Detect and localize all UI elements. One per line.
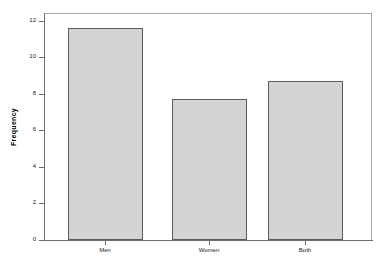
- y-axis-tick-label-4: 4: [33, 163, 36, 170]
- bar-women[interactable]: [172, 99, 247, 240]
- plot-area: [45, 14, 372, 240]
- bar-men[interactable]: [68, 28, 143, 240]
- y-axis-tick-label-0: 0: [33, 236, 36, 243]
- x-axis-tick-men: [105, 241, 106, 245]
- x-axis-label-both: Both: [299, 246, 311, 254]
- x-axis-label-women: Women: [199, 246, 220, 254]
- bar-chart: Frequency 12 10 8 6 4 2 0 Men Women Both: [0, 0, 387, 271]
- bar-both[interactable]: [268, 81, 343, 240]
- y-axis-tick-label-12: 12: [29, 17, 36, 24]
- y-axis-tick-label-10: 10: [29, 53, 36, 60]
- y-axis-title: Frequency: [10, 108, 17, 146]
- x-axis-label-men: Men: [99, 246, 111, 254]
- x-axis-tick-both: [305, 241, 306, 245]
- y-axis-tick-label-8: 8: [33, 90, 36, 97]
- x-axis-tick-women: [209, 241, 210, 245]
- y-axis-tick-label-6: 6: [33, 126, 36, 133]
- y-axis-tick-label-2: 2: [33, 199, 36, 206]
